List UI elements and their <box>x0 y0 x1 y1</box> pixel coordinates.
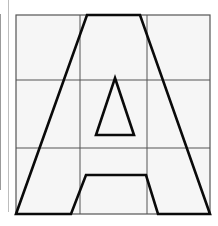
grid-background <box>16 15 210 214</box>
letter-a-grid-diagram: Letter A on 3x3 grid <box>0 0 218 226</box>
